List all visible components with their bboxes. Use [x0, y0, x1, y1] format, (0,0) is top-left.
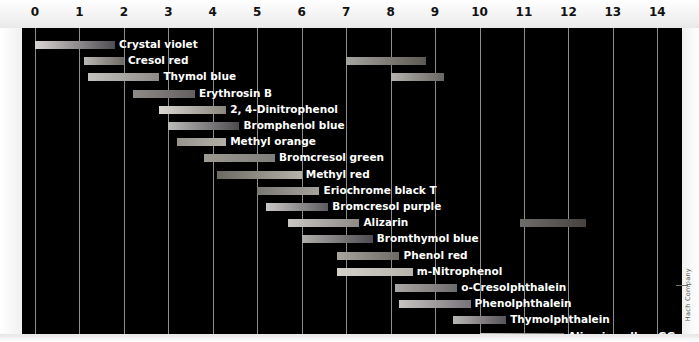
- transition-range-band: [391, 73, 444, 81]
- indicator-name-label: o-Cresolphthalein: [461, 281, 566, 294]
- indicator-name-label: Alizarin: [363, 216, 408, 229]
- ph-indicator-chart: 01234567891011121314 Crystal violetCreso…: [0, 0, 699, 342]
- indicator-row: Crystal violet: [22, 37, 682, 53]
- transition-range-band: [84, 57, 124, 65]
- x-axis-scale: 01234567891011121314: [0, 0, 699, 28]
- x-axis-tick-label: 2: [120, 5, 128, 19]
- indicator-row: Phenolphthalein: [22, 296, 682, 312]
- x-axis-tick-label: 9: [431, 5, 439, 19]
- indicator-name-label: Phenol red: [403, 249, 467, 262]
- transition-range-band: [337, 252, 399, 260]
- indicator-row: Methyl orange: [22, 134, 682, 150]
- indicator-row: Phenol red: [22, 248, 682, 264]
- indicator-name-label: Bromthymol blue: [377, 232, 479, 245]
- indicator-name-label: Bromcresol green: [279, 151, 384, 164]
- indicator-row: Cresol red: [22, 53, 682, 69]
- transition-range-band: [177, 138, 226, 146]
- transition-range-band: [35, 41, 115, 49]
- indicator-row: 2, 4-Dinitrophenol: [22, 102, 682, 118]
- x-axis-tick-label: 0: [31, 5, 39, 19]
- indicator-name-label: Bromphenol blue: [243, 119, 344, 132]
- x-axis-tick-label: 13: [604, 5, 621, 19]
- x-axis-tick-label: 3: [164, 5, 172, 19]
- x-axis-tick-label: 11: [516, 5, 533, 19]
- transition-range-band: [346, 57, 426, 65]
- plot-area: Crystal violetCresol redThymol blueEryth…: [22, 28, 682, 334]
- transition-range-band: [133, 90, 195, 98]
- x-axis-tick-label: 7: [342, 5, 350, 19]
- indicator-row: Bromcresol purple: [22, 199, 682, 215]
- transition-range-band: [88, 73, 159, 81]
- x-axis-tick-label: 8: [386, 5, 394, 19]
- indicator-row: Erythrosin B: [22, 86, 682, 102]
- transition-range-band: [159, 106, 226, 114]
- x-axis-tick-label: 6: [298, 5, 306, 19]
- x-axis-tick-label: 4: [209, 5, 217, 19]
- indicator-row: Bromcresol green: [22, 150, 682, 166]
- indicator-row: o-Cresolphthalein: [22, 280, 682, 296]
- x-axis-tick-label: 10: [471, 5, 488, 19]
- indicator-name-label: Bromcresol purple: [332, 200, 441, 213]
- indicator-row: Thymolphthalein: [22, 312, 682, 328]
- indicator-row: Alizarin: [22, 215, 682, 231]
- indicator-name-label: m-Nitrophenol: [417, 265, 503, 278]
- transition-range-band: [217, 171, 301, 179]
- indicator-name-label: Erythrosin B: [199, 87, 272, 100]
- transition-range-band: [288, 219, 359, 227]
- indicator-row: Thymol blue: [22, 69, 682, 85]
- x-axis-tick-label: 1: [75, 5, 83, 19]
- x-axis-tick-label: 12: [560, 5, 577, 19]
- indicator-name-label: Cresol red: [128, 54, 189, 67]
- indicator-name-label: Crystal violet: [119, 38, 198, 51]
- indicator-row: Eriochrome black T: [22, 183, 682, 199]
- transition-range-band: [266, 203, 328, 211]
- x-axis-tick-label: 14: [649, 5, 666, 19]
- transition-range-band: [168, 122, 239, 130]
- indicator-name-label: Eriochrome black T: [323, 184, 436, 197]
- indicator-row: Bromthymol blue: [22, 231, 682, 247]
- indicator-row: m-Nitrophenol: [22, 264, 682, 280]
- transition-range-band: [204, 154, 275, 162]
- indicator-name-label: Phenolphthalein: [475, 297, 572, 310]
- credit-label: Hach Company: [684, 268, 696, 321]
- indicator-row: Methyl red: [22, 167, 682, 183]
- transition-range-band: [257, 187, 319, 195]
- transition-range-band: [399, 300, 470, 308]
- indicator-name-label: Methyl orange: [230, 135, 316, 148]
- left-margin: [0, 28, 22, 334]
- transition-range-band: [337, 268, 413, 276]
- indicator-row: Bromphenol blue: [22, 118, 682, 134]
- transition-range-band: [395, 284, 457, 292]
- indicator-name-label: Thymol blue: [163, 70, 236, 83]
- indicator-name-label: Thymolphthalein: [510, 313, 610, 326]
- indicator-name-label: 2, 4-Dinitrophenol: [230, 103, 338, 116]
- transition-range-band: [520, 219, 587, 227]
- x-axis-tick-label: 5: [253, 5, 261, 19]
- bottom-margin: [0, 334, 699, 342]
- indicator-name-label: Methyl red: [306, 168, 370, 181]
- transition-range-band: [302, 235, 373, 243]
- transition-range-band: [453, 316, 506, 324]
